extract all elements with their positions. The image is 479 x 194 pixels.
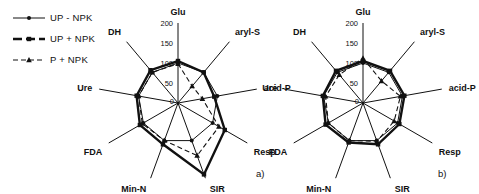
data-point-square xyxy=(161,142,165,146)
axis-label: acid-P xyxy=(449,83,476,93)
data-point-circle xyxy=(27,16,31,20)
axis-label: SIR xyxy=(210,184,226,194)
axis-label: Min-N xyxy=(121,184,146,194)
data-point-square xyxy=(223,128,227,132)
data-point-square xyxy=(202,70,206,74)
axis-label: Ure xyxy=(262,83,277,93)
axis-label: FDA xyxy=(269,147,288,157)
tick-label: 0 xyxy=(170,97,174,106)
tick-label: 200 xyxy=(345,19,358,28)
data-point-circle xyxy=(211,121,215,125)
axis-label: FDA xyxy=(84,147,103,157)
data-point-square xyxy=(27,36,31,40)
axis-label: aryl-S xyxy=(420,27,445,37)
tick-label: 150 xyxy=(160,39,173,48)
data-point-square xyxy=(397,122,401,126)
radar-figure: UP - NPK UP + NPK P + NPK Gluaryl-Sacid-… xyxy=(0,0,479,194)
legend-sample-line xyxy=(12,55,46,65)
series-UP+NPK xyxy=(137,61,225,174)
tick-label: 0 xyxy=(355,97,359,106)
axis-label: Min-N xyxy=(306,184,331,194)
axis-label: Glu xyxy=(171,7,186,17)
tick-label: 200 xyxy=(160,19,173,28)
tick-label: 150 xyxy=(345,39,358,48)
axis-label: aryl-S xyxy=(235,27,260,37)
data-point-square xyxy=(402,94,406,98)
legend-sample-line xyxy=(12,34,46,44)
chart-letter-b: b) xyxy=(438,168,446,179)
data-point-square xyxy=(388,69,392,73)
radar-chart-b: Gluaryl-Sacid-PRespSIRMin-NFDAUreDH05010… xyxy=(263,0,479,194)
data-point-square xyxy=(212,94,216,98)
data-point-triangle xyxy=(391,118,397,123)
axis-label: Ure xyxy=(77,83,92,93)
data-point-triangle xyxy=(216,124,222,129)
tick-label: 50 xyxy=(350,79,358,88)
tick-label: 50 xyxy=(165,79,173,88)
data-point-square xyxy=(202,172,206,176)
axis-label: SIR xyxy=(395,184,411,194)
chart-letter-a: a) xyxy=(256,168,264,179)
data-point-triangle xyxy=(360,55,366,60)
axis-label: Resp xyxy=(439,147,462,157)
axis-label: Glu xyxy=(356,7,371,17)
data-point-circle xyxy=(190,139,194,143)
axis-label: DH xyxy=(108,27,121,37)
axis-label: DH xyxy=(293,27,306,37)
legend-sample-line xyxy=(12,13,46,23)
data-point-square xyxy=(334,69,338,73)
